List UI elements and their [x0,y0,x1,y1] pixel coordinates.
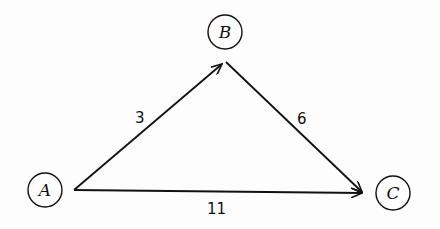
edge-a-b [74,64,222,190]
node-b: B [208,15,242,49]
node-a: A [28,173,62,207]
edge-weight-b-c: 6 [297,110,307,128]
edge-b-c [226,62,362,192]
graph-diagram: 3 6 11 A B C [0,0,440,229]
edge-weight-a-c: 11 [207,200,226,218]
edge-weight-a-b: 3 [135,109,145,127]
node-a-label: A [37,180,51,200]
edge-a-c [74,190,362,193]
node-b-label: B [218,22,232,42]
graph-canvas: 3 6 11 A B C [0,0,440,229]
node-c: C [376,176,410,210]
node-c-label: C [386,183,399,203]
